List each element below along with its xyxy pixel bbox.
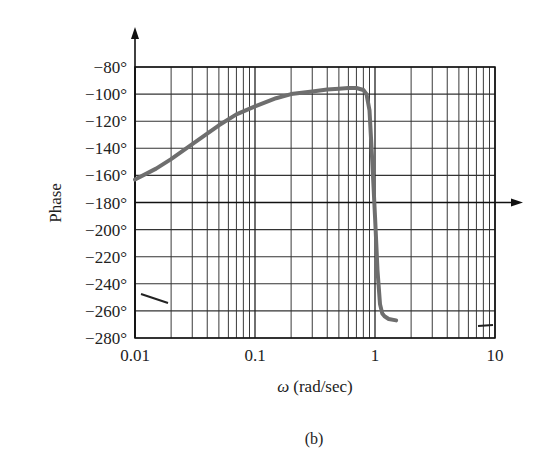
figure-caption: (b) <box>305 430 324 448</box>
y-tick-label: −200° <box>85 221 127 240</box>
stray-mark <box>478 325 493 326</box>
stray-mark <box>141 294 168 303</box>
y-tick-label: −140° <box>85 139 127 158</box>
y-axis-arrow-icon <box>131 27 139 39</box>
x-tick-label: 0.1 <box>244 346 265 365</box>
x-axis-unit: (rad/sec) <box>293 377 352 396</box>
x-tick-label: 1 <box>371 346 380 365</box>
x-tick-labels: 0.010.1110 <box>120 346 503 365</box>
x-tick-label: 0.01 <box>120 346 150 365</box>
omega-symbol: ω <box>277 377 289 396</box>
x-axis-arrow-icon <box>511 199 523 207</box>
y-axis-label: Phase <box>46 183 65 223</box>
y-tick-label: −160° <box>85 166 127 185</box>
x-tick-label: 10 <box>487 346 504 365</box>
y-tick-label: −120° <box>85 112 127 131</box>
x-axis-label: ω(rad/sec) <box>277 377 352 396</box>
phase-curve <box>135 88 396 320</box>
y-tick-label: −100° <box>85 85 127 104</box>
y-tick-label: −80° <box>94 58 127 77</box>
y-tick-label: −240° <box>85 275 127 294</box>
bode-phase-chart: −80°−100°−120°−140°−160°−180°−200°−220°−… <box>0 0 552 449</box>
y-tick-label: −180° <box>85 194 127 213</box>
y-tick-labels: −80°−100°−120°−140°−160°−180°−200°−220°−… <box>85 58 127 348</box>
y-tick-label: −260° <box>85 302 127 321</box>
y-tick-label: −220° <box>85 248 127 267</box>
